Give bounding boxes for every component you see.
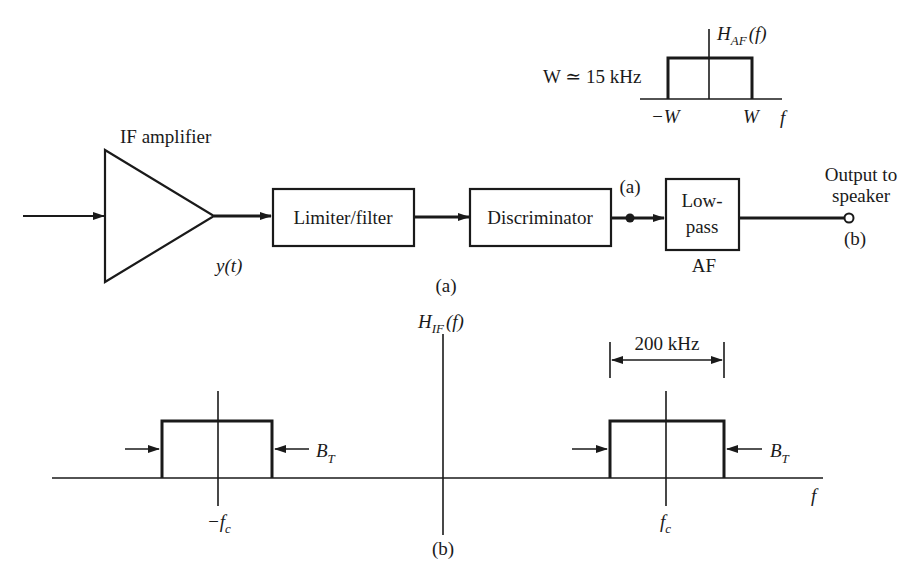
output-label-line2: speaker [832,185,891,206]
pos-bt-label: BT [770,440,790,466]
if-response-title: HIF(f) [417,311,464,336]
af-axis-label: f [780,107,788,128]
neg-fc-label: −fc [207,511,231,536]
if-amplifier-label: IF amplifier [120,126,212,147]
if-amplifier-triangle [105,150,214,282]
lowpass-label-line1: Low- [681,190,722,211]
af-pos-edge-label: W [743,106,761,127]
if-axis-label: f [811,485,819,506]
af-sub-label: AF [692,255,716,276]
pos-passband-rect [610,421,724,478]
neg-bt-label: BT [316,440,336,466]
if-response-plot: HIF(f) f BT −fc BT fc 200 kHz [52,311,823,536]
part-b-caption: (b) [432,538,454,560]
af-response-plot: HAF(f) W ≃ 15 kHz −W W f [543,23,788,128]
output-terminal [845,214,854,223]
lowpass-label-line2: pass [686,216,719,237]
af-passband-rect [668,58,752,99]
y-t-signal-label: y(t) [214,255,242,277]
node-a-label: (a) [619,176,640,198]
af-neg-edge-label: −W [651,106,682,127]
fm-receiver-figure: HAF(f) W ≃ 15 kHz −W W f IF amplifier y(… [0,0,918,587]
af-bandwidth-note: W ≃ 15 kHz [543,66,641,87]
neg-passband-rect [162,421,272,478]
block-diagram: IF amplifier y(t) Limiter/filter Discrim… [23,126,897,282]
limiter-filter-label: Limiter/filter [293,207,393,228]
span-label: 200 kHz [635,333,700,354]
output-node-b-label: (b) [844,228,866,250]
output-label-line1: Output to [825,164,897,185]
pos-fc-label: fc [660,511,671,536]
discriminator-label: Discriminator [487,207,593,228]
part-a-caption: (a) [435,275,456,297]
node-a-dot [626,214,635,223]
af-response-title: HAF(f) [716,23,767,48]
